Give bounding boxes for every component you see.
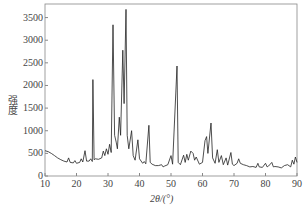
svg-text:50: 50 (166, 178, 176, 189)
svg-text:1500: 1500 (23, 102, 43, 113)
svg-text:20: 20 (72, 178, 82, 189)
svg-text:60: 60 (198, 178, 208, 189)
svg-text:90: 90 (292, 178, 302, 189)
xrd-chart: 102030405060708090 050010001500200025003… (0, 0, 303, 212)
svg-text:0: 0 (38, 170, 43, 181)
x-axis-label: 2θ/(°) (150, 193, 173, 204)
svg-text:3500: 3500 (23, 12, 43, 23)
svg-text:2500: 2500 (23, 57, 43, 68)
svg-text:40: 40 (135, 178, 145, 189)
x-axis-ticks: 102030405060708090 (40, 173, 302, 189)
y-axis-label: 强度 (4, 95, 19, 115)
xrd-line (45, 9, 297, 168)
svg-text:80: 80 (261, 178, 271, 189)
svg-text:1000: 1000 (23, 125, 43, 136)
svg-text:500: 500 (28, 147, 43, 158)
svg-text:2000: 2000 (23, 79, 43, 90)
svg-text:3000: 3000 (23, 34, 43, 45)
plot-frame (45, 4, 297, 176)
svg-text:30: 30 (103, 178, 113, 189)
svg-text:70: 70 (229, 178, 239, 189)
y-axis-ticks: 0500100015002000250030003500 (23, 12, 48, 181)
